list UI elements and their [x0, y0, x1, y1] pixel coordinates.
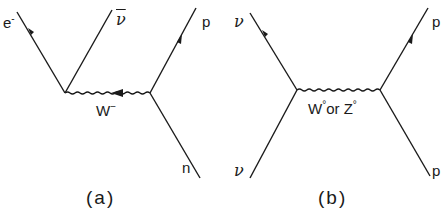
w-minus-wavy-line — [65, 92, 150, 94]
electron-line — [17, 12, 65, 93]
proton-label-a: p — [202, 14, 210, 29]
neutrino-in-label: ν — [234, 163, 244, 179]
w-minus-arrow-icon — [111, 89, 123, 97]
proton-out-line-b — [380, 8, 428, 90]
neutron-label: n — [182, 160, 190, 175]
proton-out-label-b: p — [432, 14, 440, 29]
proton-line-a — [150, 8, 196, 93]
neutrino-out-label: ν — [234, 14, 244, 30]
caption-b: (b) — [318, 188, 347, 207]
caption-a: (a) — [86, 188, 115, 207]
neutrino-in-line — [250, 90, 297, 178]
antineutrino-label: ν — [116, 12, 126, 28]
neutrino-out-line — [250, 13, 297, 90]
proton-arrow-icon-b — [408, 34, 413, 44]
feynman-diagrams-canvas — [0, 0, 445, 213]
neutron-line — [150, 93, 200, 178]
proton-in-label-b: p — [432, 163, 440, 178]
w0-or-z0-label: W°or Z° — [308, 100, 357, 116]
antineutrino-line — [65, 10, 112, 93]
w0-z0-wavy-line — [297, 89, 380, 91]
diagram-a — [17, 8, 200, 178]
electron-label: e- — [3, 14, 15, 30]
w-minus-label: W− — [96, 102, 116, 118]
proton-in-line-b — [380, 90, 430, 176]
diagram-b — [250, 8, 430, 178]
